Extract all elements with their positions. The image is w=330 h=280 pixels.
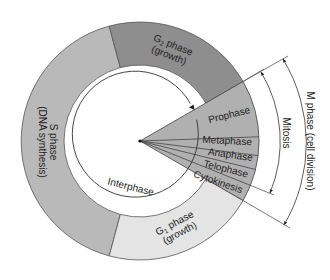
cell-cycle-diagram: G2 phase (growth) S phase (DNA synthesis… — [0, 0, 330, 280]
svg-text:(DNA synthesis): (DNA synthesis) — [37, 106, 48, 178]
m-phase-label: M phase (cell division) — [305, 92, 316, 191]
cell-cycle-svg: G2 phase (growth) S phase (DNA synthesis… — [0, 0, 330, 280]
center-point — [138, 139, 141, 142]
interphase-label: Interphase — [107, 176, 156, 198]
mitosis-bracket-arc — [261, 72, 280, 193]
m-phase-bracket-tick-top — [243, 56, 288, 82]
mitosis-label: Mitosis — [281, 117, 292, 148]
svg-text:S phase: S phase — [48, 124, 59, 161]
s-phase-segment — [21, 26, 120, 256]
svg-text:Interphase: Interphase — [107, 176, 156, 198]
m-phase-bracket-tick-bottom — [243, 201, 290, 229]
svg-text:M phase (cell division): M phase (cell division) — [305, 92, 316, 191]
interphase-arrowhead-icon — [189, 105, 195, 111]
svg-text:Mitosis: Mitosis — [281, 117, 292, 148]
mitosis-bracket-tick-bottom — [251, 185, 275, 195]
